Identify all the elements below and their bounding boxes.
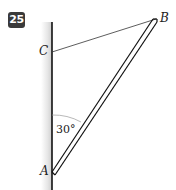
boom-edge-left	[52, 19, 153, 172]
diagram-svg	[0, 0, 176, 190]
label-c: C	[39, 44, 48, 58]
angle-arc	[52, 115, 81, 122]
label-a: A	[40, 164, 49, 178]
angle-label: 30°	[56, 123, 76, 136]
boom-edge-right	[55, 22, 157, 175]
label-b: B	[160, 11, 169, 25]
figure: 25 C B A 30°	[0, 0, 176, 190]
